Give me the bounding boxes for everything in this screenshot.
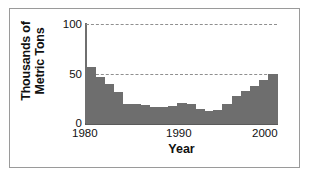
plot-area <box>86 24 277 124</box>
y-tick-label-100: 100 <box>46 19 82 30</box>
gridline-50 <box>86 74 277 75</box>
x-tick-label-1990: 1990 <box>166 127 192 139</box>
x-axis-title: Year <box>86 142 277 156</box>
y-axis-tick-labels: 100 50 0 <box>44 24 82 124</box>
x-tick-label-2000: 2000 <box>252 127 278 139</box>
x-tick-label-1980: 1980 <box>72 127 98 139</box>
x-axis-tick-labels: 1980 1990 2000 <box>86 127 277 141</box>
bar <box>268 74 278 124</box>
gridline-100 <box>86 24 277 25</box>
chart-figure: Thousands of Metric Tons 100 50 0 1980 1… <box>0 0 310 178</box>
y-axis-title: Thousands of Metric Tons <box>19 6 47 116</box>
y-tick-label-50: 50 <box>46 69 82 80</box>
